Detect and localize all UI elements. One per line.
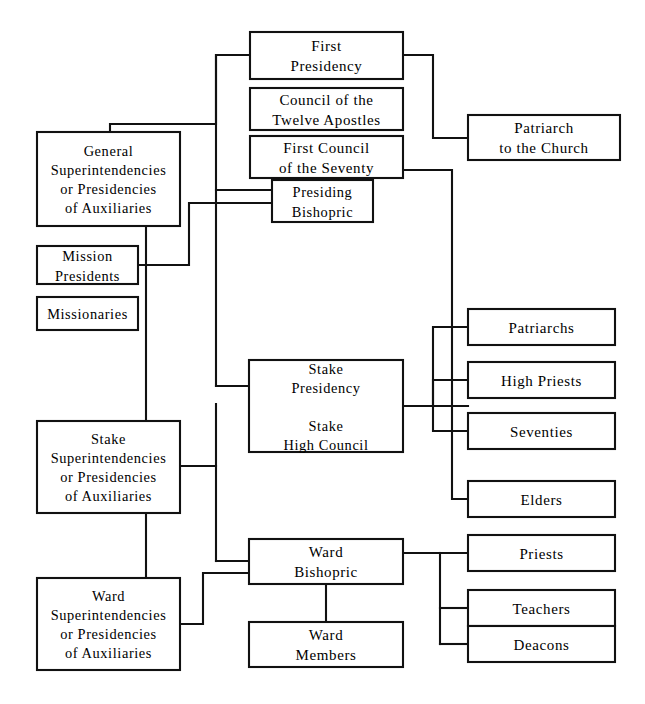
node-ward-bishopric[interactable]: WardBishopric [249, 539, 403, 584]
node-label-patriarchs: Patriarchs [509, 320, 575, 336]
node-stake-auxiliaries[interactable]: StakeSuperintendenciesor Presidenciesof … [37, 421, 180, 513]
node-stake-presidency[interactable]: StakePresidency StakeHigh Council [249, 360, 403, 453]
edge-ward-auxiliaries-to-ward-bishopric [180, 573, 249, 624]
node-ward-auxiliaries[interactable]: WardSuperintendenciesor Presidenciesof A… [37, 578, 180, 670]
node-presiding-bishopric[interactable]: PresidingBishopric [272, 180, 373, 222]
node-label-high-priests: High Priests [501, 373, 582, 389]
edge-stake-to-patriarchs [433, 327, 468, 406]
edge-stake-to-seventies [433, 406, 468, 431]
node-patriarch-to-the-church[interactable]: Patriarchto the Church [468, 115, 620, 160]
edge-stake-auxiliaries-to-trunk [180, 404, 216, 466]
node-label-elders: Elders [521, 492, 563, 508]
node-general-auxiliaries[interactable]: GeneralSuperintendenciesor Presidencieso… [37, 132, 180, 226]
node-seventies[interactable]: Seventies [468, 413, 615, 449]
edge-first-presidency-to-patriarch-church [403, 55, 468, 138]
node-deacons[interactable]: Deacons [468, 626, 615, 662]
node-layer: FirstPresidencyCouncil of theTwelve Apos… [37, 32, 620, 670]
node-priests[interactable]: Priests [468, 535, 615, 571]
node-teachers[interactable]: Teachers [468, 590, 615, 626]
node-high-priests[interactable]: High Priests [468, 362, 615, 398]
node-first-presidency[interactable]: FirstPresidency [250, 32, 403, 79]
edge-first-presidency-to-general-auxiliaries [110, 55, 250, 132]
edge-stake-to-high-priests [433, 380, 468, 406]
node-label-missionaries: Missionaries [47, 306, 128, 322]
node-ward-members[interactable]: WardMembers [249, 622, 403, 667]
node-label-priests: Priests [519, 546, 563, 562]
node-missionaries[interactable]: Missionaries [37, 297, 138, 330]
node-patriarchs[interactable]: Patriarchs [468, 309, 615, 345]
node-first-council-seventy[interactable]: First Councilof the Seventy [250, 136, 403, 178]
node-label-seventies: Seventies [510, 424, 573, 440]
node-mission-presidents[interactable]: MissionPresidents [37, 246, 138, 284]
node-council-twelve-apostles[interactable]: Council of theTwelve Apostles [250, 88, 403, 130]
node-label-deacons: Deacons [514, 637, 570, 653]
node-label-teachers: Teachers [513, 601, 571, 617]
org-chart-svg: FirstPresidencyCouncil of theTwelve Apos… [0, 0, 645, 704]
edge-seventy-to-right-trunk [403, 170, 468, 499]
org-chart-canvas: FirstPresidencyCouncil of theTwelve Apos… [0, 0, 645, 704]
node-elders[interactable]: Elders [468, 481, 615, 517]
